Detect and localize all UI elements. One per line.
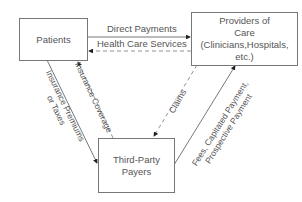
providers-label-line3: (Clinicians,Hospitals,: [200, 39, 288, 51]
third-party-label-line1: Third-Party: [113, 154, 160, 166]
direct-payments-label: Direct Payments: [107, 23, 177, 34]
third-party-payers-node: Third-Party Payers: [98, 138, 175, 193]
diagram-canvas: Patients Providers of Care (Clinicians,H…: [0, 0, 302, 202]
patients-node: Patients: [19, 18, 88, 61]
providers-label-line1: Providers of: [219, 15, 270, 27]
third-party-label-line2: Payers: [122, 166, 152, 178]
health-care-services-label: Health Care Services: [97, 38, 187, 49]
providers-node: Providers of Care (Clinicians,Hospitals,…: [191, 12, 298, 66]
providers-label-line4: etc.): [235, 51, 253, 63]
providers-label-line2: Care: [234, 27, 255, 39]
patients-label: Patients: [36, 34, 70, 46]
